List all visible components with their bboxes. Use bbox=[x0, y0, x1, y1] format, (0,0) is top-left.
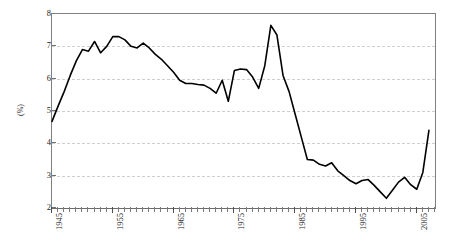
x-tick-mark bbox=[100, 207, 101, 212]
x-tick-mark bbox=[197, 207, 198, 212]
x-tick-mark bbox=[203, 207, 204, 212]
x-tick-label: 1965 bbox=[177, 213, 186, 230]
x-tick-mark bbox=[337, 207, 338, 212]
x-tick-mark bbox=[185, 207, 186, 212]
x-tick-mark bbox=[349, 207, 350, 212]
x-tick-mark bbox=[434, 207, 435, 212]
x-tick-mark bbox=[258, 207, 259, 212]
x-tick-label: 1945 bbox=[55, 213, 64, 230]
x-tick-mark bbox=[154, 207, 155, 212]
x-tick-mark bbox=[422, 207, 423, 212]
x-tick-mark bbox=[124, 207, 125, 212]
x-tick-mark bbox=[270, 207, 271, 212]
x-tick-mark bbox=[300, 207, 301, 212]
x-tick-mark bbox=[367, 207, 368, 212]
x-tick-mark bbox=[343, 207, 344, 212]
x-tick-mark bbox=[191, 207, 192, 212]
x-tick-label: 1955 bbox=[116, 213, 125, 230]
plot-area bbox=[51, 13, 436, 209]
x-tick-mark bbox=[288, 207, 289, 212]
x-tick-label: 1995 bbox=[359, 213, 368, 230]
x-tick-mark bbox=[75, 207, 76, 212]
x-tick-mark bbox=[325, 207, 326, 212]
x-tick-mark bbox=[87, 207, 88, 212]
x-tick-label: 2005 bbox=[420, 213, 429, 230]
x-tick-mark bbox=[391, 207, 392, 212]
x-tick-mark bbox=[179, 207, 180, 212]
y-tick-label: 7 bbox=[37, 41, 51, 50]
x-tick-mark bbox=[306, 207, 307, 212]
x-tick-mark bbox=[246, 207, 247, 212]
x-tick-mark bbox=[57, 207, 58, 212]
x-axis-labels: 1945195519651975198519952005 bbox=[51, 213, 434, 248]
x-tick-mark bbox=[331, 207, 332, 212]
y-tick-label: 5 bbox=[37, 106, 51, 115]
x-tick-mark bbox=[410, 207, 411, 212]
x-tick-mark bbox=[215, 207, 216, 212]
x-tick-mark bbox=[209, 207, 210, 212]
y-tick-label: 8 bbox=[37, 9, 51, 18]
x-tick-mark bbox=[428, 207, 429, 212]
x-tick-label: 1975 bbox=[237, 213, 246, 230]
x-tick-mark bbox=[130, 207, 131, 212]
x-tick-mark bbox=[318, 207, 319, 212]
x-tick-mark bbox=[264, 207, 265, 212]
x-tick-mark bbox=[106, 207, 107, 212]
series-polyline bbox=[52, 25, 429, 198]
y-axis-ticks: 2345678 bbox=[14, 13, 51, 207]
x-tick-label: 1985 bbox=[298, 213, 307, 230]
x-tick-mark bbox=[160, 207, 161, 212]
x-tick-mark bbox=[373, 207, 374, 212]
x-tick-mark bbox=[167, 207, 168, 212]
x-tick-mark bbox=[239, 207, 240, 212]
x-tick-mark bbox=[221, 207, 222, 212]
x-tick-mark bbox=[404, 207, 405, 212]
x-tick-mark bbox=[227, 207, 228, 212]
x-tick-mark bbox=[136, 207, 137, 212]
x-tick-mark bbox=[312, 207, 313, 212]
y-tick-label: 4 bbox=[37, 138, 51, 147]
x-tick-mark bbox=[361, 207, 362, 212]
y-tick-label: 3 bbox=[37, 170, 51, 179]
x-tick-mark bbox=[81, 207, 82, 212]
line-series bbox=[52, 14, 435, 208]
x-tick-mark bbox=[252, 207, 253, 212]
x-tick-mark bbox=[379, 207, 380, 212]
x-tick-mark bbox=[276, 207, 277, 212]
x-tick-mark bbox=[94, 207, 95, 212]
x-tick-mark bbox=[148, 207, 149, 212]
x-tick-mark bbox=[398, 207, 399, 212]
x-tick-mark bbox=[385, 207, 386, 212]
y-tick-label: 6 bbox=[37, 73, 51, 82]
x-tick-mark bbox=[69, 207, 70, 212]
x-tick-mark bbox=[118, 207, 119, 212]
x-tick-mark bbox=[63, 207, 64, 212]
chart-container: (%) 2345678 1945195519651975198519952005 bbox=[0, 0, 451, 248]
x-tick-mark bbox=[282, 207, 283, 212]
y-tick-label: 2 bbox=[37, 203, 51, 212]
x-tick-mark bbox=[142, 207, 143, 212]
